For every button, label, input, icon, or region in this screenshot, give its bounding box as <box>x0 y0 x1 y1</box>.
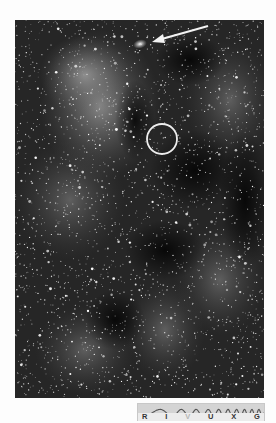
band-label-r: R <box>142 413 147 421</box>
arrow-icon <box>152 26 208 43</box>
spectrum-bar: R I V U X G <box>137 403 265 421</box>
annotation-overlay <box>15 20 264 398</box>
band-label-v: V <box>185 413 190 421</box>
band-labels: R I V U X G <box>138 413 264 421</box>
band-label-x: X <box>231 413 236 421</box>
band-label-i: I <box>165 413 167 421</box>
target-circle <box>147 124 177 154</box>
star-field-photo <box>15 20 264 398</box>
band-label-g: G <box>254 413 260 421</box>
band-label-u: U <box>208 413 213 421</box>
